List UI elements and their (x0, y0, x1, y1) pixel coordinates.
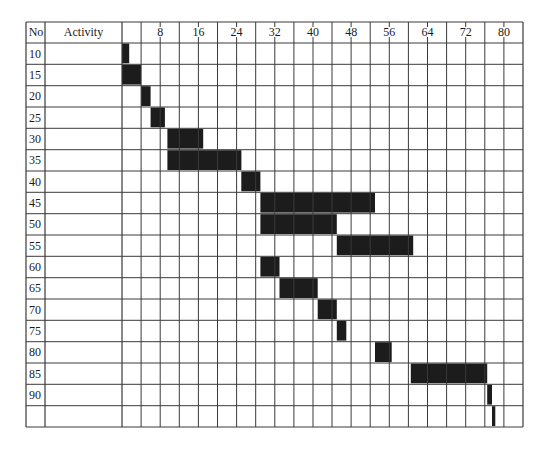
activity-bar (337, 236, 413, 256)
activity-number: 75 (29, 324, 41, 338)
activity-bar (151, 108, 165, 128)
activity-bar (167, 129, 203, 149)
time-tick-label: 56 (379, 25, 399, 39)
activity-number: 15 (29, 68, 41, 82)
time-tick-label: 16 (188, 25, 208, 39)
time-tick-label: 8 (150, 25, 170, 39)
activity-number: 25 (29, 111, 41, 125)
activity-bar (280, 278, 318, 298)
activity-number: 20 (29, 89, 41, 103)
activity-number: 10 (29, 47, 41, 61)
activity-bar (487, 385, 492, 405)
activity-bar (122, 44, 129, 64)
column-header-activity: Activity (45, 25, 122, 39)
activity-bar (260, 214, 336, 234)
activity-number: 55 (29, 239, 41, 253)
activity-number: 30 (29, 132, 41, 146)
activity-bar (337, 321, 347, 341)
activity-bar (260, 193, 375, 213)
time-tick-label: 40 (303, 25, 323, 39)
activity-number: 80 (29, 345, 41, 359)
activity-bar (141, 86, 151, 106)
activity-bar (241, 172, 260, 192)
time-tick-label: 32 (265, 25, 285, 39)
time-tick-label: 72 (456, 25, 476, 39)
time-tick-label: 24 (227, 25, 247, 39)
time-tick-label: 64 (418, 25, 438, 39)
activity-bar (167, 150, 241, 170)
activity-bar (492, 406, 495, 426)
activity-number: 60 (29, 260, 41, 274)
activity-number: 90 (29, 388, 41, 402)
activity-number: 85 (29, 367, 41, 381)
time-tick-label: 48 (341, 25, 361, 39)
activity-number: 35 (29, 153, 41, 167)
activity-bar (260, 257, 279, 277)
activity-bar (411, 364, 487, 384)
activity-number: 45 (29, 196, 41, 210)
column-header-no: No (27, 25, 45, 39)
gantt-chart (0, 0, 545, 450)
time-tick-label: 80 (494, 25, 514, 39)
activity-bar (122, 65, 141, 85)
activity-bar (318, 300, 337, 320)
activity-number: 70 (29, 303, 41, 317)
activity-number: 65 (29, 281, 41, 295)
activity-number: 50 (29, 217, 41, 231)
activity-number: 40 (29, 175, 41, 189)
